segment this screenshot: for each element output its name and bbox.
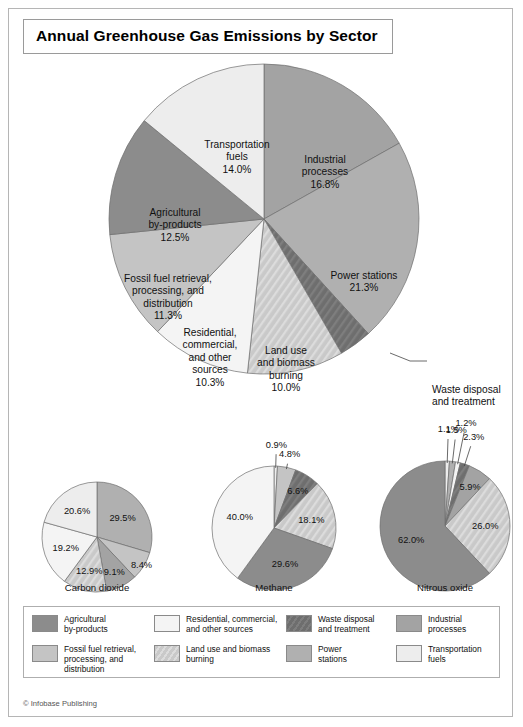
sub-chart-caption: Carbon dioxide(72% of total) [65, 582, 130, 595]
legend-label: Residential, commercial, and other sourc… [186, 614, 277, 634]
pie-slice-label: 29.6% [272, 559, 298, 569]
pie-slice-label: 62.0% [398, 535, 424, 545]
sub-pie-charts: 29.5%8.4%9.1%12.9%19.2%20.6%0.9%4.8%6.6%… [9, 395, 514, 595]
legend-label: Land use and biomass burning [186, 644, 270, 664]
legend: Agricultural by-productsResidential, com… [23, 606, 500, 678]
legend-swatch [32, 615, 58, 632]
pie-slice-label: 20.6% [64, 506, 90, 516]
main-pie-svg: Industrialprocesses16.8%Power stations21… [9, 55, 514, 405]
page-title: Annual Greenhouse Gas Emissions by Secto… [36, 27, 378, 45]
legend-swatch [32, 645, 58, 662]
pie-slice-label: 6.6% [287, 486, 308, 496]
legend-item-residential: Residential, commercial, and other sourc… [154, 614, 286, 644]
label-leader-line [452, 440, 455, 464]
pie-slice-label: 19.2% [53, 543, 79, 553]
legend-item-transportation: Transportation fuels [396, 644, 494, 674]
pie-slice-label: 0.9% [266, 440, 287, 450]
legend-swatch [154, 615, 180, 632]
legend-label: Industrial processes [428, 614, 466, 634]
title-box: Annual Greenhouse Gas Emissions by Secto… [23, 19, 393, 54]
legend-label: Fossil fuel retrieval, processing, and d… [64, 644, 154, 675]
pie-slice-label: 2.3% [463, 432, 484, 442]
legend-swatch [154, 645, 180, 662]
legend-label: Power stations [318, 644, 347, 664]
sub-pie-svg: 29.5%8.4%9.1%12.9%19.2%20.6%0.9%4.8%6.6%… [9, 395, 514, 595]
legend-item-waste: Waste disposal and treatment [286, 614, 396, 644]
legend-swatch [286, 645, 312, 662]
legend-grid: Agricultural by-productsResidential, com… [32, 614, 494, 674]
pie-slice-label: 4.8% [279, 449, 300, 459]
pie-slice-label: 12.9% [76, 566, 102, 576]
label-leader-line [447, 439, 448, 463]
sub-chart-caption: Nitrous oxide(9% of total) [417, 582, 473, 595]
pie-slice-label: 1.2% [455, 418, 476, 428]
pie-slice-label: 5.9% [460, 482, 481, 492]
pie-slice-label: 26.0% [472, 521, 498, 531]
pie-slice-label: 9.1% [104, 567, 125, 577]
legend-label: Waste disposal and treatment [318, 614, 374, 634]
infographic-frame: Annual Greenhouse Gas Emissions by Secto… [8, 8, 513, 717]
pie-slice-label: 8.4% [131, 560, 152, 570]
pie-slice-label: 18.1% [298, 515, 324, 525]
label-leader-line [464, 446, 470, 466]
copyright-credit: © Infobase Publishing [23, 699, 97, 708]
waste-callout-leader [390, 353, 427, 361]
legend-item-power: Power stations [286, 644, 396, 674]
main-pie-chart: Industrialprocesses16.8%Power stations21… [9, 55, 514, 405]
legend-item-agricultural: Agricultural by-products [32, 614, 154, 644]
legend-item-industrial: Industrial processes [396, 614, 494, 644]
legend-label: Agricultural by-products [64, 614, 108, 634]
main-pie-slice-label: Residential,commercial,and othersources1… [183, 327, 238, 388]
pie-slice-label: 40.0% [227, 512, 253, 522]
legend-label: Transportation fuels [428, 644, 482, 664]
legend-swatch [396, 645, 422, 662]
legend-swatch [396, 615, 422, 632]
legend-swatch [286, 615, 312, 632]
pie-slice-label: 29.5% [109, 513, 135, 523]
legend-item-fossil-fuel: Fossil fuel retrieval, processing, and d… [32, 644, 154, 674]
legend-item-land-use: Land use and biomass burning [154, 644, 286, 674]
